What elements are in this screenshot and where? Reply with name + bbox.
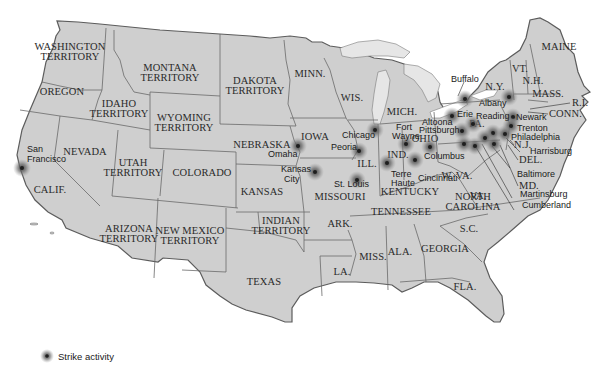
svg-text:TERRITORY: TERRITORY <box>40 51 99 62</box>
svg-text:TERRITORY: TERRITORY <box>89 108 148 119</box>
lake-superior <box>340 40 410 58</box>
svg-text:N.H.: N.H. <box>523 75 544 86</box>
svg-text:Chicago: Chicago <box>342 130 375 140</box>
strike-map: WASHINGTON TERRITORY OREGON IDAHO TERRIT… <box>0 0 591 366</box>
svg-text:MISS.: MISS. <box>359 251 387 262</box>
svg-text:TERRITORY: TERRITORY <box>154 122 213 133</box>
legend: Strike activity <box>40 349 114 363</box>
us-map-svg: WASHINGTON TERRITORY OREGON IDAHO TERRIT… <box>0 0 591 366</box>
svg-text:Francisco: Francisco <box>27 154 66 164</box>
svg-text:Erie: Erie <box>457 109 473 119</box>
svg-text:Cincinnati: Cincinnati <box>418 173 458 183</box>
svg-text:CALIF.: CALIF. <box>34 184 67 195</box>
svg-text:TENNESSEE: TENNESSEE <box>371 206 431 217</box>
svg-text:MICH.: MICH. <box>387 106 418 117</box>
svg-text:FLA.: FLA. <box>454 281 477 292</box>
svg-text:MINN.: MINN. <box>294 68 325 79</box>
svg-text:KANSAS: KANSAS <box>241 186 284 197</box>
strike-marker-buffalo[interactable] <box>456 90 474 108</box>
svg-text:Cumberland: Cumberland <box>522 200 571 210</box>
strike-marker-icon <box>40 349 54 363</box>
svg-text:R.I.: R.I. <box>572 97 588 108</box>
svg-text:TERRITORY: TERRITORY <box>251 225 310 236</box>
svg-text:CAROLINA: CAROLINA <box>445 201 500 212</box>
svg-text:Philadelphia: Philadelphia <box>511 132 560 142</box>
svg-text:San: San <box>27 144 43 154</box>
svg-text:NEVADA: NEVADA <box>63 146 107 157</box>
svg-text:GEORGIA: GEORGIA <box>421 243 469 254</box>
svg-text:St. Louis: St. Louis <box>334 179 370 189</box>
svg-text:Kansas: Kansas <box>281 164 312 174</box>
svg-text:Peoria: Peoria <box>331 142 357 152</box>
svg-text:Martinsburg: Martinsburg <box>520 189 568 199</box>
svg-text:TEXAS: TEXAS <box>247 276 281 287</box>
svg-text:WIS.: WIS. <box>341 92 363 103</box>
svg-text:Newark: Newark <box>516 112 547 122</box>
svg-text:Baltimore: Baltimore <box>517 169 555 179</box>
svg-text:CONN.: CONN. <box>549 108 582 119</box>
svg-text:COLORADO: COLORADO <box>172 167 231 178</box>
svg-text:TERRITORY: TERRITORY <box>160 235 219 246</box>
svg-text:Buffalo: Buffalo <box>451 74 479 84</box>
svg-text:Harrisburg: Harrisburg <box>530 146 572 156</box>
svg-text:TERRITORY: TERRITORY <box>140 72 199 83</box>
svg-text:TERRITORY: TERRITORY <box>103 167 162 178</box>
svg-text:Columbus: Columbus <box>424 151 465 161</box>
svg-text:S.C.: S.C. <box>460 223 479 234</box>
svg-text:Haute: Haute <box>391 178 415 188</box>
svg-text:ARK.: ARK. <box>327 218 352 229</box>
svg-text:Omaha: Omaha <box>268 149 298 159</box>
strike-marker-cincinnati[interactable] <box>406 151 424 169</box>
svg-text:Wayne: Wayne <box>392 131 420 141</box>
svg-text:MISSOURI: MISSOURI <box>315 191 366 202</box>
svg-text:ALA.: ALA. <box>388 246 413 257</box>
svg-text:IOWA: IOWA <box>301 131 329 142</box>
svg-text:Reading: Reading <box>476 111 510 121</box>
svg-text:OREGON: OREGON <box>40 86 85 97</box>
svg-text:MAINE: MAINE <box>542 41 577 52</box>
legend-label: Strike activity <box>58 351 114 362</box>
svg-text:TERRITORY: TERRITORY <box>225 85 284 96</box>
svg-text:Pittsburgh: Pittsburgh <box>419 125 460 135</box>
svg-text:Albany: Albany <box>479 98 507 108</box>
strike-marker-baltimore[interactable] <box>485 135 503 153</box>
svg-text:TERRITORY: TERRITORY <box>99 233 158 244</box>
svg-text:N.Y.: N.Y. <box>485 81 504 92</box>
svg-text:MASS.: MASS. <box>532 88 564 99</box>
svg-text:VT.: VT. <box>512 63 528 74</box>
svg-text:LA.: LA. <box>334 266 351 277</box>
svg-text:City: City <box>284 174 300 184</box>
